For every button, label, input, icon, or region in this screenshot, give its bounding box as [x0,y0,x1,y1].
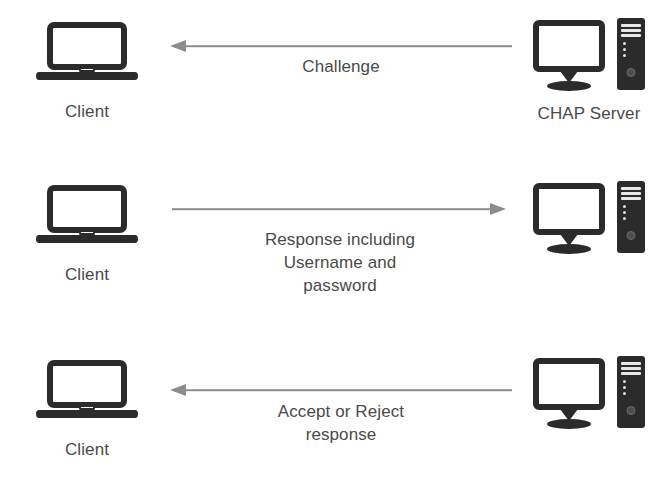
client-node-step-2: Client [36,185,138,285]
tower-drive-slot [621,192,641,195]
tower-power-button-icon [627,68,636,77]
arrow-label-response: Response including Username and password [240,228,440,297]
tower-indicator-led [623,211,626,214]
arrow-response [172,201,506,217]
tower-drive-slot [621,362,641,365]
server-node-step-3 [533,356,645,442]
client-label-step-3: Client [65,440,109,460]
server-icon [533,181,645,253]
arrow-challenge [170,38,512,54]
tower-drive-slot [621,367,641,370]
monitor-foot [547,81,591,91]
client-node-step-3: Client [36,360,138,460]
server-icon [533,18,645,90]
tower-power-button-icon [627,406,636,415]
server-node-step-2 [533,181,645,267]
laptop-base [36,410,138,418]
arrow-shaft [172,208,492,210]
tower-indicator-led [623,386,626,389]
chap-authentication-diagram: Client CHAP Server Challenge [0,0,671,484]
monitor-foot [547,419,591,429]
monitor-screen [533,20,605,72]
laptop-base [36,235,138,243]
tower-icon [617,18,645,90]
client-node-step-1: Client [36,22,138,122]
laptop-screen [47,185,127,233]
server-label-step-1: CHAP Server [538,104,641,124]
monitor-screen [533,183,605,235]
tower-indicator-led [623,205,626,208]
tower-indicator-led [623,380,626,383]
tower-indicator-led [623,217,626,220]
laptop-icon [36,22,138,80]
monitor-screen [533,358,605,410]
tower-drive-slot [621,187,641,190]
tower-icon [617,181,645,253]
arrow-shaft [184,389,512,391]
arrow-label-accept-reject: Accept or Reject response [241,400,441,446]
tower-power-button-icon [627,231,636,240]
arrow-shaft [184,45,512,47]
tower-drive-slot [621,197,641,200]
laptop-screen [47,360,127,408]
tower-indicator-led [623,48,626,51]
monitor-foot [547,244,591,254]
server-icon [533,356,645,428]
arrow-accept-reject [170,382,512,398]
arrow-head-right-icon [490,203,506,215]
tower-indicator-led [623,392,626,395]
client-label-step-1: Client [65,102,109,122]
arrow-label-challenge: Challenge [241,55,441,78]
monitor-icon [533,358,605,428]
laptop-icon [36,185,138,243]
laptop-base [36,72,138,80]
monitor-icon [533,183,605,253]
server-node-step-1: CHAP Server [533,18,645,124]
laptop-screen [47,22,127,70]
tower-drive-slot [621,372,641,375]
tower-indicator-led [623,54,626,57]
client-label-step-2: Client [65,265,109,285]
tower-icon [617,356,645,428]
tower-drive-slot [621,24,641,27]
monitor-icon [533,20,605,90]
laptop-icon [36,360,138,418]
tower-indicator-led [623,42,626,45]
tower-drive-slot [621,29,641,32]
tower-drive-slot [621,34,641,37]
